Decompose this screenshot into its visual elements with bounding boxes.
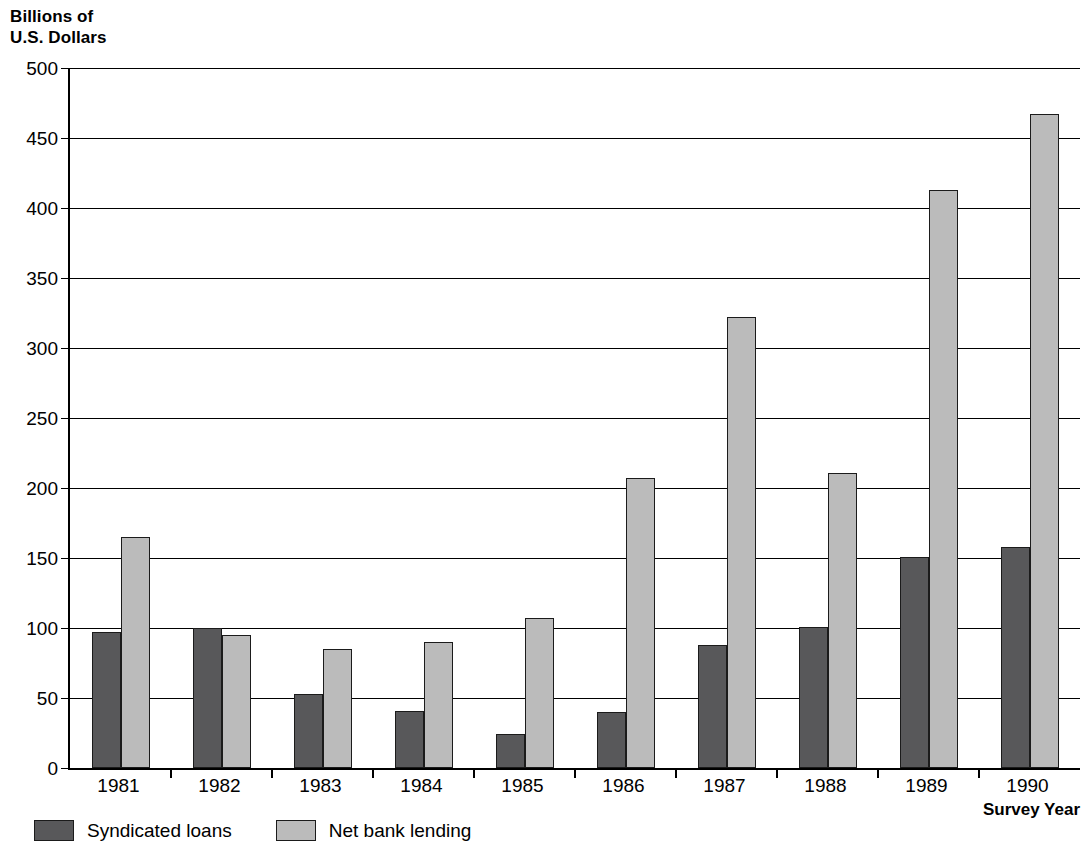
x-axis-title: Survey Year [983, 800, 1080, 820]
bar-1984-net-bank-lending [424, 642, 453, 768]
bar-1982-net-bank-lending [222, 635, 251, 768]
plot-area [68, 68, 1080, 770]
y-axis-tick [61, 418, 70, 419]
x-axis-tick-label-1981: 1981 [97, 775, 139, 797]
y-axis-tick [61, 68, 70, 69]
y-axis-tick-label: 400 [26, 199, 58, 218]
y-axis-tick-label: 350 [26, 269, 58, 288]
y-axis-tick-label: 500 [26, 59, 58, 78]
bar-1982-syndicated-loans [193, 628, 222, 768]
y-axis-tick-label: 0 [47, 759, 58, 778]
bar-1983-net-bank-lending [323, 649, 352, 768]
legend: Syndicated loansNet bank lending [34, 818, 515, 842]
x-axis-tick-label-1982: 1982 [198, 775, 240, 797]
y-axis-tick-label: 150 [26, 549, 58, 568]
legend-swatch-icon [34, 820, 74, 841]
legend-swatch-icon [276, 820, 316, 841]
bar-1981-syndicated-loans [92, 632, 121, 768]
bar-1988-syndicated-loans [799, 627, 828, 768]
bar-1988-net-bank-lending [828, 473, 857, 768]
x-axis-tick-label-1987: 1987 [703, 775, 745, 797]
y-axis-tick [61, 558, 70, 559]
bar-1990-net-bank-lending [1030, 114, 1059, 768]
x-axis-tick-label-1986: 1986 [602, 775, 644, 797]
bar-1987-net-bank-lending [727, 317, 756, 768]
y-axis-title: Billions of U.S. Dollars [10, 6, 107, 48]
y-axis-tick [61, 208, 70, 209]
y-axis-tick [61, 348, 70, 349]
x-axis-tick-labels: 1981198219831984198519861987198819891990 [68, 775, 1078, 801]
bar-1989-syndicated-loans [900, 557, 929, 768]
bar-1989-net-bank-lending [929, 190, 958, 768]
y-axis-tick-label: 300 [26, 339, 58, 358]
legend-entry-net-bank-lending[interactable]: Net bank lending [276, 820, 472, 841]
y-axis-tick-labels: 050100150200250300350400450500 [0, 68, 58, 768]
x-axis-tick-label-1985: 1985 [501, 775, 543, 797]
bar-1981-net-bank-lending [121, 537, 150, 768]
bar-1987-syndicated-loans [698, 645, 727, 768]
y-axis-tick-label: 200 [26, 479, 58, 498]
x-axis-tick-label-1983: 1983 [299, 775, 341, 797]
y-axis-tick [61, 768, 70, 769]
y-axis-tick [61, 278, 70, 279]
bar-1986-syndicated-loans [597, 712, 626, 768]
bar-1985-net-bank-lending [525, 618, 554, 768]
y-axis-tick-label: 450 [26, 129, 58, 148]
bar-1984-syndicated-loans [395, 711, 424, 768]
legend-label: Syndicated loans [87, 820, 232, 841]
legend-label: Net bank lending [329, 820, 472, 841]
bar-chart: Billions of U.S. Dollars 050100150200250… [0, 0, 1092, 849]
y-axis-tick-label: 50 [37, 689, 58, 708]
x-axis-tick-label-1984: 1984 [400, 775, 442, 797]
y-axis-tick-label: 250 [26, 409, 58, 428]
bar-1985-syndicated-loans [496, 734, 525, 768]
y-axis-tick [61, 698, 70, 699]
y-axis-tick-label: 100 [26, 619, 58, 638]
bar-1986-net-bank-lending [626, 478, 655, 768]
legend-entry-syndicated-loans[interactable]: Syndicated loans [34, 820, 232, 841]
x-axis-tick-label-1989: 1989 [905, 775, 947, 797]
y-axis-tick [61, 628, 70, 629]
bar-1990-syndicated-loans [1001, 547, 1030, 768]
x-axis-tick-label-1990: 1990 [1006, 775, 1048, 797]
bar-1983-syndicated-loans [294, 694, 323, 768]
x-axis-tick-label-1988: 1988 [804, 775, 846, 797]
bars-layer [70, 68, 1080, 768]
y-axis-tick [61, 488, 70, 489]
y-axis-tick [61, 138, 70, 139]
